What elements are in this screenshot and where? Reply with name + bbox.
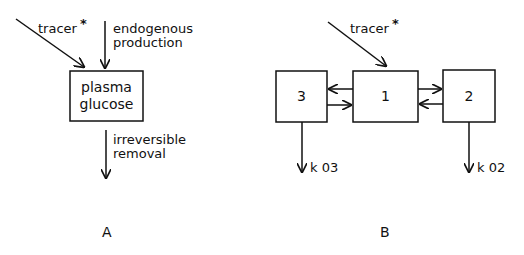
tracer-text: tracer <box>38 21 77 36</box>
glucose-line: glucose <box>70 96 143 113</box>
k03-label: k 03 <box>310 161 338 175</box>
tracer-marker: * <box>392 16 399 31</box>
tracer-marker: * <box>80 16 87 31</box>
diagram-canvas <box>0 0 524 255</box>
panel-b-label: B <box>380 224 390 240</box>
endogenous-line: endogenous <box>113 22 193 36</box>
compartment-3-label: 3 <box>276 88 327 105</box>
irreversible-removal-label: irreversible removal <box>113 133 186 161</box>
plasma-glucose-label: plasma glucose <box>70 79 143 113</box>
panel-a-label: A <box>102 224 112 240</box>
tracer-label-b: tracer* <box>350 22 399 36</box>
compartment-2-label: 2 <box>443 88 495 105</box>
removal-line: removal <box>113 147 186 161</box>
plasma-line: plasma <box>70 79 143 96</box>
k02-label: k 02 <box>477 161 505 175</box>
irreversible-line: irreversible <box>113 133 186 147</box>
production-line: production <box>113 36 193 50</box>
tracer-label-a: tracer* <box>38 22 87 36</box>
compartment-1-label: 1 <box>353 88 418 105</box>
endogenous-production-label: endogenous production <box>113 22 193 50</box>
tracer-text: tracer <box>350 21 389 36</box>
